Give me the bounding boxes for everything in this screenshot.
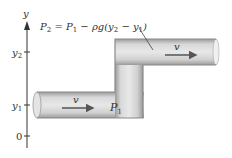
- axis-arrow-icon: [24, 21, 30, 30]
- axis-label: y: [22, 8, 29, 19]
- upper-velocity-label: v: [174, 41, 180, 52]
- upper-pipe-opening: [213, 39, 219, 65]
- lower-velocity-label: v: [73, 94, 79, 105]
- y-axis: y y2 y1 0: [11, 8, 30, 148]
- tick-label-y1: y1: [11, 100, 22, 113]
- tick-label-0: 0: [16, 131, 22, 142]
- pressure-equation: P2 = P1 − ρg(y2 − y1): [39, 21, 147, 34]
- tick-label-y2: y2: [11, 47, 22, 60]
- fluid-pipe-diagram: y y2 y1 0 v v P1 P2 = P1 − ρg(y2 − y1): [0, 0, 232, 158]
- upper-pipe: [115, 39, 217, 65]
- pipe: [33, 39, 219, 118]
- lower-pipe-opening: [33, 92, 41, 118]
